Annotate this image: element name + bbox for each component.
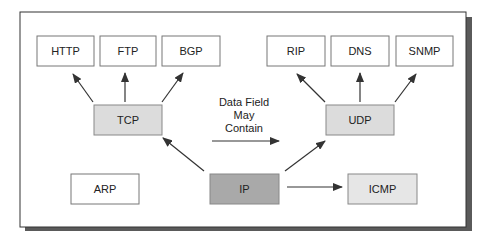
node-label: UDP — [348, 114, 371, 126]
node-rip: RIP — [267, 36, 325, 66]
node-label: RIP — [287, 45, 305, 57]
legend-line-1: Data Field — [219, 96, 269, 108]
node-label: BGP — [179, 45, 202, 57]
node-udp: UDP — [326, 105, 394, 135]
node-label: ARP — [94, 183, 117, 195]
node-label: IP — [239, 183, 249, 195]
node-label: HTTP — [51, 45, 80, 57]
node-label: SNMP — [409, 45, 441, 57]
node-http: HTTP — [37, 36, 94, 66]
node-label: ICMP — [369, 183, 397, 195]
legend-line-2: May — [234, 109, 255, 121]
node-snmp: SNMP — [396, 36, 453, 66]
node-label: TCP — [117, 114, 139, 126]
node-bgp: BGP — [162, 36, 220, 66]
node-ip: IP — [210, 174, 279, 204]
node-dns: DNS — [331, 36, 389, 66]
node-arp: ARP — [71, 174, 139, 204]
legend-line-3: Contain — [225, 122, 263, 134]
node-ftp: FTP — [100, 36, 156, 66]
protocol-diagram: HTTP FTP BGP RIP DNS SNMP TCP UDP ARP IP… — [0, 0, 487, 242]
node-icmp: ICMP — [348, 174, 417, 204]
node-tcp: TCP — [94, 105, 162, 135]
node-label: FTP — [118, 45, 139, 57]
node-label: DNS — [348, 45, 371, 57]
